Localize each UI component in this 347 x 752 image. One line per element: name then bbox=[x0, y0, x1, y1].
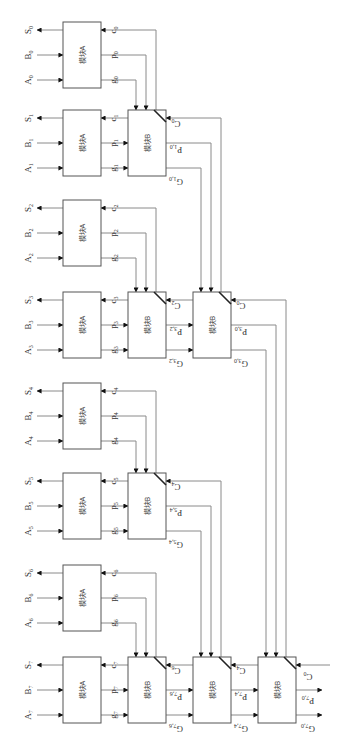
label-cin-B74: C4 bbox=[236, 665, 245, 676]
svg-text:G5,4: G5,4 bbox=[169, 539, 183, 550]
label-b2: B2 bbox=[23, 228, 34, 237]
svg-text:B5: B5 bbox=[23, 501, 34, 510]
svg-text:c3: c3 bbox=[108, 297, 119, 304]
svg-text:A2: A2 bbox=[23, 253, 34, 263]
p-wire-30 bbox=[231, 325, 276, 657]
svg-text:p0: p0 bbox=[108, 51, 119, 59]
svg-text:G1,0: G1,0 bbox=[169, 176, 183, 187]
label-g-B32: G3,2 bbox=[169, 358, 183, 369]
svg-text:S2: S2 bbox=[23, 204, 34, 212]
svg-text:p5: p5 bbox=[108, 502, 119, 510]
svg-text:P1,0: P1,0 bbox=[170, 144, 183, 155]
svg-text:模块B: 模块B bbox=[208, 680, 217, 699]
label-p-B30: P3,0 bbox=[235, 326, 248, 337]
svg-text:模块B: 模块B bbox=[208, 315, 217, 334]
svg-text:模块A: 模块A bbox=[78, 496, 87, 515]
label-s3: S3 bbox=[23, 296, 34, 304]
label-p5: p5 bbox=[108, 502, 119, 510]
svg-text:B2: B2 bbox=[23, 228, 34, 237]
svg-text:B1: B1 bbox=[23, 138, 34, 147]
label-cin-B10: C0 bbox=[171, 118, 180, 129]
svg-text:模块A: 模块A bbox=[78, 680, 87, 699]
module-b-B54-label: 模块B bbox=[143, 496, 152, 515]
label-g6: g6 bbox=[108, 619, 119, 627]
svg-text:A5: A5 bbox=[23, 526, 34, 536]
c-wire-30 bbox=[231, 300, 286, 660]
module-a-2-label: 模块A bbox=[78, 223, 87, 242]
label-a7: A7 bbox=[23, 710, 34, 720]
label-g-B54: G5,4 bbox=[169, 539, 183, 550]
label-c1: c1 bbox=[108, 115, 119, 122]
module-b-B74-label: 模块B bbox=[208, 680, 217, 699]
svg-text:模块B: 模块B bbox=[143, 133, 152, 152]
label-p7: p7 bbox=[108, 686, 119, 694]
svg-text:p2: p2 bbox=[108, 229, 119, 237]
label-p2: p2 bbox=[108, 229, 119, 237]
svg-text:g5: g5 bbox=[108, 527, 119, 535]
svg-text:模块A: 模块A bbox=[78, 133, 87, 152]
label-a3: A3 bbox=[23, 345, 34, 355]
svg-text:g3: g3 bbox=[108, 346, 119, 354]
label-a4: A4 bbox=[23, 436, 34, 446]
label-c6: c6 bbox=[108, 570, 119, 577]
label-s1: S1 bbox=[23, 114, 34, 122]
module-b-B70-label: 模块B bbox=[273, 680, 282, 699]
label-s0: S0 bbox=[23, 26, 34, 34]
svg-text:S5: S5 bbox=[23, 477, 34, 485]
label-b6: B6 bbox=[23, 593, 34, 602]
label-g4: g4 bbox=[108, 437, 119, 445]
label-p-B32: P3,2 bbox=[170, 326, 183, 337]
label-b3: B3 bbox=[23, 320, 34, 329]
label-cin-B32: C2 bbox=[171, 300, 180, 311]
label-s5: S5 bbox=[23, 477, 34, 485]
svg-text:c2: c2 bbox=[108, 205, 119, 212]
svg-text:S7: S7 bbox=[23, 661, 34, 669]
svg-text:c5: c5 bbox=[108, 478, 119, 485]
g-wire-4 bbox=[101, 441, 136, 473]
svg-text:模块A: 模块A bbox=[78, 406, 87, 425]
module-b-B32-label: 模块B bbox=[143, 315, 152, 334]
module-b-B30-label: 模块B bbox=[208, 315, 217, 334]
label-cin-B70: C0 bbox=[303, 671, 312, 682]
label-g-B30: G3,0 bbox=[234, 358, 248, 369]
label-a5: A5 bbox=[23, 526, 34, 536]
svg-text:G7,4: G7,4 bbox=[234, 723, 248, 734]
svg-text:G3,0: G3,0 bbox=[234, 358, 248, 369]
svg-text:c0: c0 bbox=[108, 27, 119, 34]
svg-text:c1: c1 bbox=[108, 115, 119, 122]
label-b4: B4 bbox=[23, 411, 34, 420]
module-a-0-label: 模块A bbox=[78, 45, 87, 64]
label-g7: g7 bbox=[108, 711, 119, 719]
svg-text:C6: C6 bbox=[171, 665, 180, 676]
svg-text:模块B: 模块B bbox=[143, 680, 152, 699]
svg-text:S4: S4 bbox=[23, 387, 34, 395]
svg-text:P7,4: P7,4 bbox=[235, 691, 248, 702]
svg-text:g7: g7 bbox=[108, 711, 119, 719]
label-cin-B54: C4 bbox=[171, 481, 180, 492]
c-wire-6 bbox=[101, 573, 156, 660]
svg-text:p1: p1 bbox=[108, 139, 119, 147]
label-c7: c7 bbox=[108, 662, 119, 669]
label-s2: S2 bbox=[23, 204, 34, 212]
label-c0: c0 bbox=[108, 27, 119, 34]
svg-text:A0: A0 bbox=[23, 75, 34, 85]
label-p-B76: P7,6 bbox=[170, 691, 183, 702]
label-p-B54: P5,4 bbox=[170, 507, 183, 518]
label-a1: A1 bbox=[23, 163, 34, 173]
svg-text:S6: S6 bbox=[23, 569, 34, 577]
svg-text:P7,0: P7,0 bbox=[302, 695, 315, 706]
module-a-7-label: 模块A bbox=[78, 680, 87, 699]
svg-text:p7: p7 bbox=[108, 686, 119, 694]
label-p-B70: P7,0 bbox=[302, 695, 315, 706]
c-wire-2 bbox=[101, 208, 156, 295]
label-c3: c3 bbox=[108, 297, 119, 304]
svg-text:P3,2: P3,2 bbox=[170, 326, 183, 337]
svg-text:模块A: 模块A bbox=[78, 588, 87, 607]
svg-text:C2: C2 bbox=[171, 300, 180, 311]
svg-text:g4: g4 bbox=[108, 437, 119, 445]
label-a0: A0 bbox=[23, 75, 34, 85]
svg-text:B3: B3 bbox=[23, 320, 34, 329]
label-b1: B1 bbox=[23, 138, 34, 147]
label-p3: p3 bbox=[108, 321, 119, 329]
svg-text:P3,0: P3,0 bbox=[235, 326, 248, 337]
